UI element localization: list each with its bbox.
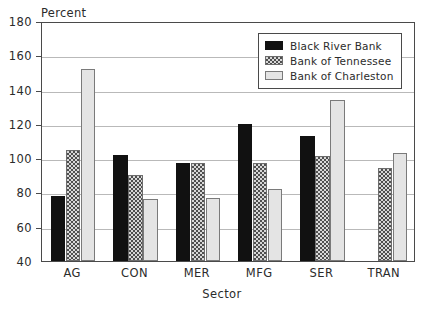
x-axis-tick-label-mfg: MFG xyxy=(228,266,290,280)
legend-label: Bank of Tennessee xyxy=(290,55,391,67)
legend-item-2: Bank of Charleston xyxy=(265,68,394,83)
y-axis-tick xyxy=(36,22,41,23)
bar-mer-series1 xyxy=(191,163,206,261)
y-axis-tick xyxy=(36,193,41,194)
bar-mfg-series0 xyxy=(238,124,253,261)
gridline xyxy=(42,160,414,161)
x-axis-tick-label-con: CON xyxy=(103,266,165,280)
bar-ser-series0 xyxy=(300,136,315,261)
y-axis-tick xyxy=(36,56,41,57)
x-axis-tick-label-tran: TRAN xyxy=(353,266,415,280)
legend-label: Black River Bank xyxy=(290,40,382,52)
bar-con-series1 xyxy=(128,175,143,261)
bar-ser-series1 xyxy=(315,156,330,261)
bar-mfg-series2 xyxy=(268,189,283,261)
bar-tran-series2 xyxy=(393,153,408,261)
legend-swatch-icon-0 xyxy=(265,41,283,50)
x-axis-tick-label-ag: AG xyxy=(41,266,103,280)
y-axis-tick-label: 40 xyxy=(0,255,32,269)
gridline xyxy=(42,92,414,93)
bar-con-series0 xyxy=(113,155,128,261)
legend-swatch-icon-2 xyxy=(265,71,283,80)
y-axis-tick-label: 120 xyxy=(0,118,32,132)
y-axis-tick-label: 140 xyxy=(0,84,32,98)
y-axis-tick-label: 60 xyxy=(0,221,32,235)
y-axis-tick xyxy=(36,159,41,160)
y-axis-title: Percent xyxy=(41,6,86,20)
y-axis-tick-label: 180 xyxy=(0,15,32,29)
bar-ag-series0 xyxy=(51,196,66,261)
gridline xyxy=(42,126,414,127)
gridline xyxy=(42,229,414,230)
y-axis-tick-label: 160 xyxy=(0,49,32,63)
y-axis-tick-label: 80 xyxy=(0,186,32,200)
bar-mer-series0 xyxy=(176,163,191,261)
bar-ser-series2 xyxy=(330,100,345,261)
bar-con-series2 xyxy=(143,199,158,261)
bar-chart: Percent 406080100120140160180 AGCONMERMF… xyxy=(0,0,444,326)
chart-legend: Black River BankBank of TennesseeBank of… xyxy=(258,33,402,89)
bar-ag-series2 xyxy=(81,69,96,261)
y-axis-tick xyxy=(36,125,41,126)
x-axis-tick-label-ser: SER xyxy=(290,266,352,280)
bar-ag-series1 xyxy=(66,150,81,261)
gridline xyxy=(42,194,414,195)
legend-item-1: Bank of Tennessee xyxy=(265,53,394,68)
legend-item-0: Black River Bank xyxy=(265,38,394,53)
legend-swatch-icon-1 xyxy=(265,56,283,65)
bar-tran-series1 xyxy=(378,168,393,261)
legend-label: Bank of Charleston xyxy=(290,70,394,82)
x-axis-tick-label-mer: MER xyxy=(166,266,228,280)
bar-mfg-series1 xyxy=(253,163,268,261)
bar-mer-series2 xyxy=(206,198,221,261)
x-axis-title: Sector xyxy=(0,287,444,301)
y-axis-tick-label: 100 xyxy=(0,152,32,166)
y-axis-tick xyxy=(36,228,41,229)
y-axis-tick xyxy=(36,91,41,92)
